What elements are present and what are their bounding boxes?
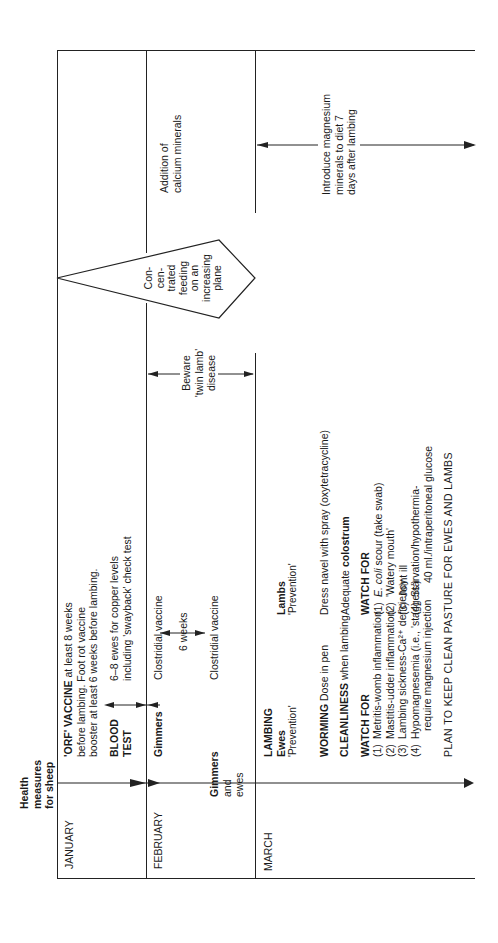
orf-vaccine-note: 'ORF' VACCINE at least 8 weeks before la… <box>62 568 100 757</box>
and-line: and <box>221 751 234 797</box>
worming-text: Dose in pen <box>318 645 330 704</box>
colostrum-label: colostrum <box>339 516 351 567</box>
month-label-january: JANUARY <box>63 820 76 869</box>
blood-test-line: BLOOD <box>108 719 121 757</box>
item-text: scour (take swab) <box>372 483 384 569</box>
item-text: Starvation/hypothermia- <box>409 486 421 597</box>
item-text: Joint ill <box>397 565 409 597</box>
magnesium-line: minerals to diet 7 <box>333 94 346 195</box>
item-italic: E. coli <box>372 568 384 597</box>
lambs-prevention: 'Prevention' <box>287 563 300 615</box>
magnesium-line: Introduce magnesium <box>320 94 333 195</box>
lambs-watch-item: (1)E. coli scour (take swab) <box>372 430 385 615</box>
orf-vaccine-text: booster at least 6 weeks before lambing. <box>87 568 100 757</box>
copper-line: including 'swayback' check test <box>121 536 134 681</box>
six-weeks-interval: 6 weeks <box>177 612 190 651</box>
calcium-minerals-note: Addition of calcium minerals <box>158 115 183 193</box>
lambs-watch-item: (2)'Watery mouth' <box>384 430 397 615</box>
ewes-line: ewes <box>233 751 246 797</box>
lambs-watch-for: WATCH FOR <box>359 430 372 615</box>
time-arrowhead-jan <box>130 779 146 787</box>
item-number: (1) <box>372 597 385 615</box>
copper-levels-note: 6–8 ewes for copper levels including 'sw… <box>108 536 133 681</box>
cleanliness-text: when lambing <box>338 615 350 683</box>
clean-pasture-plan: PLAN TO KEEP CLEAN PASTURE FOR EWES AND … <box>442 452 455 757</box>
lambs-care: Dress navel with spray (oxytetracycline)… <box>318 430 434 615</box>
gimmers-and-ewes: Gimmers and ewes <box>208 751 246 797</box>
magnesium-line: days after lambing <box>345 94 358 195</box>
orf-vaccine-text: at least 8 weeks <box>62 602 74 680</box>
concentrated-feeding-note: Con- cen- trated feeding on an increasin… <box>143 243 224 313</box>
gimmers-line: Gimmers <box>208 751 221 797</box>
calcium-line: calcium minerals <box>171 115 184 193</box>
feeding-line: plane <box>212 243 224 313</box>
orf-vaccine-label: 'ORF' VACCINE <box>62 680 74 757</box>
feeding-line: on an <box>189 243 201 313</box>
lambs-heading: Lambs <box>275 563 288 615</box>
lambs-watch-item: (4)Starvation/hypothermia- <box>409 430 422 615</box>
clostridial-vaccine-1: Clostridial vaccine <box>152 595 165 680</box>
worming-label: WORMING <box>318 704 330 757</box>
calcium-line: Addition of <box>158 115 171 193</box>
diagram-title: Health measures for sheep <box>18 760 56 809</box>
item-number: (3) <box>396 739 409 757</box>
title-line: measures <box>31 760 44 809</box>
item-number: (4) <box>409 739 422 757</box>
lambs-watch-item: (3)Joint ill <box>397 430 410 615</box>
month-label-february: FEBRUARY <box>152 812 165 869</box>
blood-test-label: BLOOD TEST <box>108 719 133 757</box>
blood-test-line: TEST <box>121 719 134 757</box>
time-arrowhead-end <box>464 778 474 788</box>
item-number: (4) <box>409 597 422 615</box>
feeding-line: trated <box>166 243 178 313</box>
colostrum-text: Adequate <box>339 567 351 615</box>
gimmers-label: Gimmers <box>152 711 165 757</box>
twin-lamb-line: Beware <box>180 346 193 400</box>
item-number: (1) <box>371 739 384 757</box>
title-line: for sheep <box>43 760 56 809</box>
item-text: Mastitis-udder inflammation <box>384 611 396 739</box>
item-text-continued: 40 ml./intraperitoneal glucose <box>422 430 435 615</box>
item-number: (2) <box>384 739 397 757</box>
item-number: (2) <box>384 597 397 615</box>
item-text: Metritis-womb inflammation <box>371 611 383 739</box>
item-text: 'Watery mouth' <box>384 528 396 597</box>
dress-navel-text: Dress navel with spray (oxytetracycline) <box>318 430 331 615</box>
magnesium-note: Introduce magnesium minerals to diet 7 d… <box>320 94 358 195</box>
clostridial-vaccine-2: Clostridial vaccine <box>208 595 221 680</box>
month-label-march: MARCH <box>262 833 275 872</box>
twin-lamb-line: disease <box>205 346 218 400</box>
title-line: Health <box>18 760 31 809</box>
item-number: (3) <box>397 597 410 615</box>
twin-lamb-warning: Beware 'twin lamb' disease <box>180 346 218 400</box>
sheep-health-diagram: Health measures for sheep JANUARY FEBRUA… <box>0 0 498 943</box>
twin-lamb-line: 'twin lamb' <box>193 346 206 400</box>
orf-vaccine-text: before lambing. Foot rot vaccine <box>75 568 88 757</box>
feeding-line: Con- <box>143 243 155 313</box>
time-arrowhead-feb <box>148 779 160 787</box>
copper-line: 6–8 ewes for copper levels <box>108 536 121 681</box>
cleanliness-label: CLEANLINESS <box>338 683 350 757</box>
lambs-section: Lambs 'Prevention' <box>262 563 300 615</box>
